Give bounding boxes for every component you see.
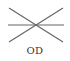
od-cross-lines-icon — [0, 0, 70, 46]
od-label: OD — [0, 45, 70, 56]
